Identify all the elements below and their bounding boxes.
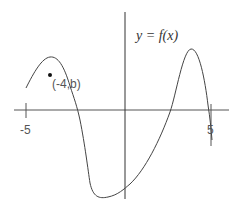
tick-label-pos5: 5 xyxy=(207,123,214,137)
function-graph: (-4,b) y = f(x) -5 5 xyxy=(0,0,239,209)
function-label: y = f(x) xyxy=(134,28,178,44)
point-label: (-4,b) xyxy=(52,77,81,91)
tick-label-neg5: -5 xyxy=(20,123,31,137)
function-curve xyxy=(26,49,212,198)
